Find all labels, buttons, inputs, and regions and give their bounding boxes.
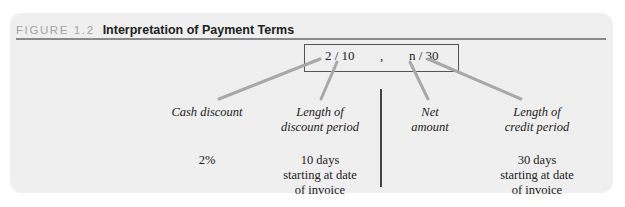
value-line: 2% [157,153,257,168]
value-line: starting at date [270,168,370,183]
label-net-amount: Net amount [400,105,460,135]
label-line: credit period [487,120,587,135]
label-credit-period: Length of credit period [487,105,587,135]
column-divider [380,89,382,187]
value-cash-discount: 2% [157,153,257,168]
value-line: of invoice [487,183,587,198]
figure-header: FIGURE 1.2 Interpretation of Payment Ter… [16,20,294,38]
terms-separator: , [380,48,383,64]
label-line: Cash discount [157,105,257,120]
label-line: Net [400,105,460,120]
header-rule [16,38,606,40]
value-line: 30 days [487,153,587,168]
value-line: of invoice [270,183,370,198]
label-cash-discount: Cash discount [157,105,257,120]
discount-term: 2 / 10 [325,48,355,64]
label-line: discount period [270,120,370,135]
value-line: 10 days [270,153,370,168]
value-discount-period: 10 days starting at date of invoice [270,153,370,198]
label-line: Length of [270,105,370,120]
figure-label: FIGURE 1.2 [16,24,95,36]
label-line: amount [400,120,460,135]
value-credit-period: 30 days starting at date of invoice [487,153,587,198]
value-line: starting at date [487,168,587,183]
figure-title: Interpretation of Payment Terms [103,23,294,37]
label-discount-period: Length of discount period [270,105,370,135]
net-term: n / 30 [409,48,439,64]
label-line: Length of [487,105,587,120]
